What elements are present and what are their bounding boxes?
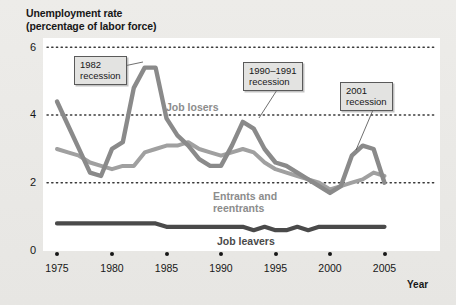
x-tick-label-1985: 1985 (145, 262, 189, 274)
callout-2001-line2: recession (346, 96, 387, 107)
callout-1982-recession: 1982 recession (74, 56, 127, 85)
x-tick-label-1995: 1995 (254, 262, 298, 274)
callout-1990-line2: recession (249, 76, 297, 87)
callout-1982-line2: recession (80, 70, 121, 81)
callout-1990-line1: 1990–1991 (249, 65, 297, 76)
x-tick-dot-1975 (55, 252, 59, 256)
x-tick-dot-2000 (328, 252, 332, 256)
x-tick-dot-1990 (219, 252, 223, 256)
series-line-job-leavers (57, 223, 385, 230)
callout-1982-line1: 1982 (80, 59, 121, 70)
x-tick-label-2005: 2005 (363, 262, 407, 274)
x-axis-title: Year (407, 279, 428, 290)
x-tick-label-1980: 1980 (90, 262, 134, 274)
y-tick-label-0: 0 (14, 244, 36, 256)
plot-svg (0, 0, 456, 305)
x-tick-dot-2005 (383, 252, 387, 256)
series-label-job-leavers: Job leavers (217, 235, 275, 247)
x-tick-label-2000: 2000 (308, 262, 352, 274)
y-tick-label-4: 4 (14, 108, 36, 120)
callout-2001-recession: 2001 recession (340, 82, 393, 111)
callout-1990-1991-recession: 1990–1991 recession (243, 62, 303, 91)
chart-figure: Unemployment rate (percentage of labor f… (0, 0, 456, 305)
x-tick-label-1975: 1975 (35, 262, 79, 274)
series-label-entrants-line1: Entrants and (213, 190, 277, 202)
x-tick-dot-1995 (274, 252, 278, 256)
series-label-job-losers: Job losers (166, 101, 219, 113)
y-tick-label-2: 2 (14, 176, 36, 188)
x-tick-dot-1980 (110, 252, 114, 256)
series-label-entrants: Entrants and reentrants (213, 190, 277, 214)
series-line-job-losers (57, 68, 385, 193)
callout-2001-line1: 2001 (346, 85, 387, 96)
series-label-entrants-line2: reentrants (213, 202, 264, 214)
x-tick-label-1990: 1990 (199, 262, 243, 274)
y-tick-label-6: 6 (14, 41, 36, 53)
x-tick-dot-1985 (165, 252, 169, 256)
